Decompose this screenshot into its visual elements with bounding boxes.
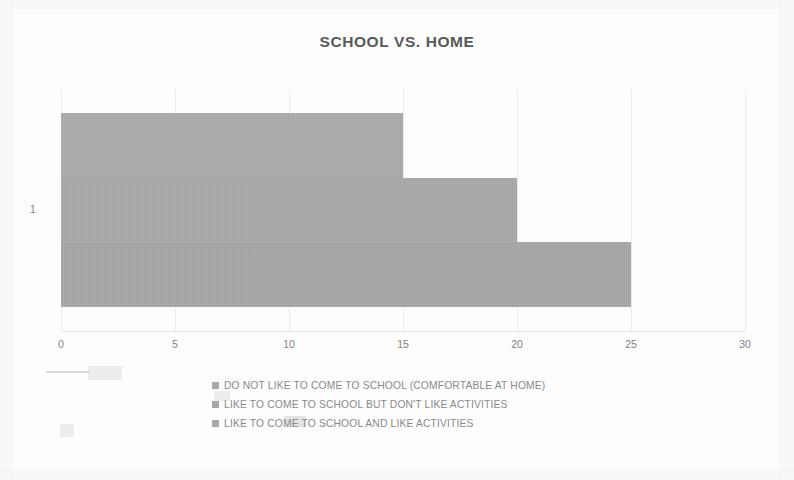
scan-smudge-b [46, 371, 90, 373]
x-tick-label-20: 20 [511, 338, 523, 350]
x-tick-label-25: 25 [625, 338, 637, 350]
legend-swatch-icon [212, 401, 219, 408]
y-axis-category-label: 1 [30, 203, 36, 215]
legend-item-label: LIKE TO COME TO SCHOOL BUT DON'T LIKE AC… [224, 399, 507, 410]
legend-item-3[interactable]: LIKE TO COME TO SCHOOL AND LIKE ACTIVITI… [0, 414, 794, 433]
legend-swatch-icon [212, 420, 219, 427]
chart-container: SCHOOL VS. HOME 1 0 5 10 15 20 25 30 DO … [0, 0, 794, 480]
legend-item-1[interactable]: DO NOT LIKE TO COME TO SCHOOL (COMFORTAB… [0, 376, 794, 395]
chart-title: SCHOOL VS. HOME [0, 33, 794, 51]
x-tick-label-5: 5 [172, 338, 178, 350]
x-tick-label-0: 0 [58, 338, 64, 350]
gridline-30 [745, 90, 746, 331]
plot-area [61, 90, 745, 331]
legend-item-2[interactable]: LIKE TO COME TO SCHOOL BUT DON'T LIKE AC… [0, 395, 794, 414]
scan-edge-tint-top [0, 0, 794, 10]
x-tick-label-15: 15 [397, 338, 409, 350]
x-axis-line [61, 331, 745, 332]
x-tick-label-30: 30 [739, 338, 751, 350]
legend-item-label: DO NOT LIKE TO COME TO SCHOOL (COMFORTAB… [224, 380, 545, 391]
gridline-25 [631, 90, 632, 331]
x-tick-label-10: 10 [283, 338, 295, 350]
bar-series-2[interactable] [61, 178, 517, 242]
legend-item-label: LIKE TO COME TO SCHOOL AND LIKE ACTIVITI… [224, 418, 474, 429]
legend-swatch-icon [212, 382, 219, 389]
bar-series-1[interactable] [61, 113, 403, 178]
bar-series-3[interactable] [61, 242, 631, 307]
chart-legend: DO NOT LIKE TO COME TO SCHOOL (COMFORTAB… [0, 376, 794, 433]
scan-edge-tint-bottom [0, 468, 794, 480]
